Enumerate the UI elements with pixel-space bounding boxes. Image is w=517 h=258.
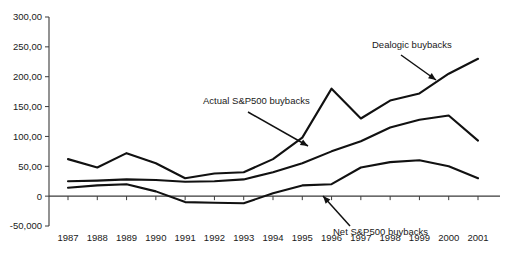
y-axis-tick-label: 100,00 [13,131,42,142]
annotation-group: Dealogic buybacksActual S&P500 buybacksN… [203,39,452,237]
x-axis-tick-label: 1994 [262,232,283,243]
x-axis-tick-label: 1992 [204,232,225,243]
annotation-label-dealogic-buybacks: Dealogic buybacks [372,39,452,50]
x-axis-tick-label: 1995 [292,232,313,243]
data-series-group [68,59,478,204]
x-axis-tick-label: 1991 [175,232,196,243]
x-axis-tick-label: 1990 [145,232,166,243]
annotation-label-actual-s-p500-buybacks: Actual S&P500 buybacks [203,95,310,106]
chart-container: 300,00250,00200,00150,00100,0050,000-50,… [0,0,517,258]
line-chart: 300,00250,00200,00150,00100,0050,000-50,… [0,0,517,258]
y-axis-tick-label: 200,00 [13,71,42,82]
y-axis-tick-label: 50,00 [18,161,42,172]
y-axis-tick-label: -50,000 [10,220,42,231]
x-axis-tick-label: 2000 [438,232,459,243]
y-axis: 300,00250,00200,00150,00100,0050,000-50,… [10,11,49,231]
annotation-arrowhead-dealogic-buybacks [428,73,436,80]
y-axis-tick-label: 0 [37,191,42,202]
x-axis: 1987198819891990199119921993199419951996… [49,196,500,243]
x-axis-tick-label: 1988 [87,232,108,243]
y-axis-tick-label: 250,00 [13,41,42,52]
x-axis-tick-label: 1989 [116,232,137,243]
x-axis-tick-label: 2001 [467,232,488,243]
annotation-leader-actual-s-p500-buybacks [248,112,308,146]
y-axis-tick-label: 150,00 [13,101,42,112]
x-axis-tick-label: 1987 [57,232,78,243]
y-axis-tick-label: 300,00 [13,11,42,22]
x-axis-tick-label: 1993 [233,232,254,243]
annotation-label-net-s-p500-buybacks: Net S&P500 buybacks [333,226,428,237]
